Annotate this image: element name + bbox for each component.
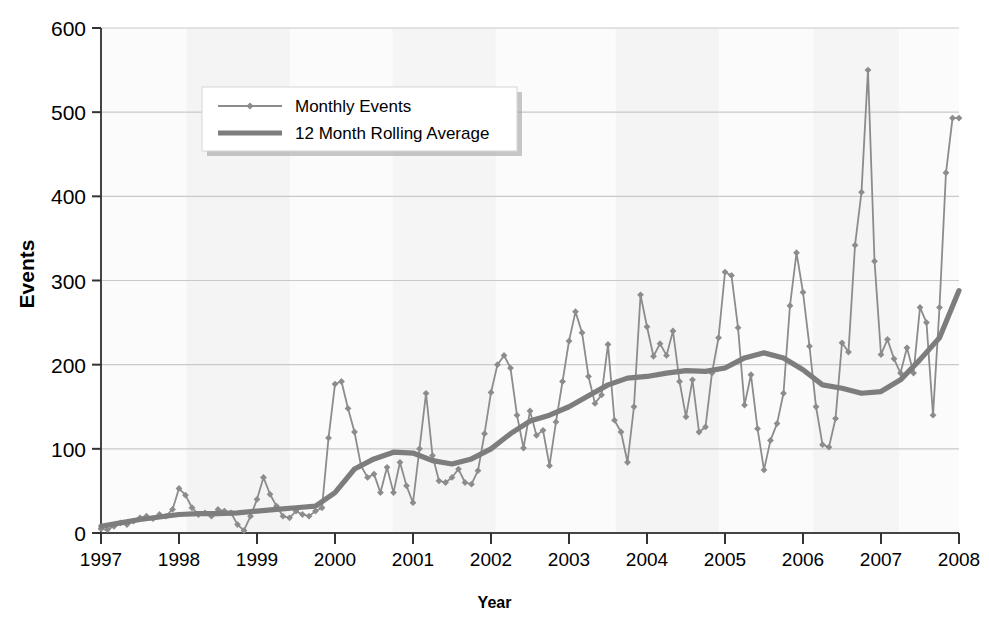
- legend-label-monthly-events: Monthly Events: [295, 97, 411, 116]
- chart-legend[interactable]: Monthly Events12 Month Rolling Average: [202, 87, 522, 156]
- y-tick-label: 400: [51, 185, 86, 208]
- x-tick-label: 2008: [938, 549, 980, 570]
- x-tick-label: 2006: [782, 549, 824, 570]
- x-tick-label: 2000: [314, 549, 356, 570]
- x-axis: [101, 533, 959, 544]
- y-axis: [92, 28, 101, 533]
- x-tick-label: 1997: [80, 549, 122, 570]
- x-tick-labels: 1997199819992000200120022003200420052006…: [80, 549, 980, 570]
- y-tick-label: 0: [74, 522, 86, 545]
- x-tick-label: 2001: [392, 549, 434, 570]
- x-tick-label: 2007: [860, 549, 902, 570]
- y-tick-label: 500: [51, 101, 86, 124]
- x-tick-label: 2005: [704, 549, 746, 570]
- x-axis-title: Year: [0, 594, 989, 612]
- x-tick-label: 2002: [470, 549, 512, 570]
- y-axis-title: Events: [15, 229, 39, 319]
- line-chart-canvas: 0100200300400500600 19971998199920002001…: [0, 0, 989, 628]
- y-tick-labels: 0100200300400500600: [51, 17, 86, 545]
- y-tick-label: 600: [51, 17, 86, 40]
- x-tick-label: 2003: [548, 549, 590, 570]
- chart-figure: 0100200300400500600 19971998199920002001…: [0, 0, 989, 628]
- y-tick-label: 200: [51, 354, 86, 377]
- y-tick-label: 300: [51, 270, 86, 293]
- x-tick-label: 1998: [158, 549, 200, 570]
- y-tick-label: 100: [51, 438, 86, 461]
- legend-label-rolling-average: 12 Month Rolling Average: [295, 124, 489, 143]
- x-tick-label: 1999: [236, 549, 278, 570]
- x-tick-label: 2004: [626, 549, 669, 570]
